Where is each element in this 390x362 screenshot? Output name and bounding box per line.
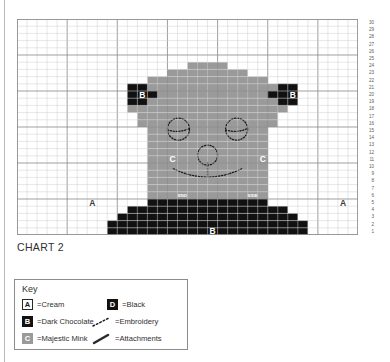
key-entry-majestic-mink: C =Majestic Mink [22,332,87,345]
key-entry-embroidery: =Embroidery [91,315,158,328]
chart-row-number: 17 [369,113,374,120]
chart-row-number: 25 [369,55,374,62]
chart-row-number: 5 [372,199,374,206]
chart-row-number: 18 [369,105,374,112]
key-label-cream: =Cream [37,300,64,309]
key-swatch-majestic-mink: C [22,333,33,344]
chart-row-number: 15 [369,127,374,134]
chart-row-number: 23 [369,69,374,76]
chart-row-number: 20 [369,91,374,98]
key-entry-dark-chocolate: B =Dark Chocolate [22,315,94,328]
chart-grid-canvas [17,19,358,235]
chart-caption: CHART 2 [17,241,64,253]
chart-row-number: 14 [369,134,374,141]
key-label-embroidery: =Embroidery [115,317,158,326]
key-entry-attachments: =Attachments [91,332,162,345]
key-entry-cream: A =Cream [22,298,64,311]
chart-row-number: 7 [372,185,374,192]
key-label-dark-chocolate: =Dark Chocolate [37,317,94,326]
chart-row-number: 4 [372,206,374,213]
attachment-solid-line-icon [91,333,111,345]
chart-row-number: 30 [369,19,374,26]
knitting-chart: BBCCAABENDSIDE [17,19,358,235]
chart-row-number: 24 [369,62,374,69]
chart-row-number: 27 [369,41,374,48]
chart-row-number: 16 [369,120,374,127]
chart-row-number: 2 [372,221,374,228]
chart-row-number: 19 [369,98,374,105]
key-label-majestic-mink: =Majestic Mink [37,334,87,343]
key-label-attachments: =Attachments [115,334,162,343]
key-entry-black: D =Black [107,298,145,311]
chart-row-number: 6 [372,192,374,199]
key-swatch-black: D [107,299,118,310]
chart-row-number: 10 [369,163,374,170]
chart-row-number: 28 [369,33,374,40]
page-left-rule [4,0,5,362]
chart-row-number: 26 [369,48,374,55]
chart-row-number: 11 [369,156,374,163]
key-label-black: =Black [122,300,145,309]
embroidery-dashed-line-icon [91,316,111,328]
chart-key-legend: Key A =Cream B =Dark Chocolate C =Majest… [14,279,188,350]
chart-row-number: 13 [369,141,374,148]
chart-row-number: 9 [372,170,374,177]
chart-row-number: 22 [369,77,374,84]
chart-row-number: 3 [372,213,374,220]
chart-row-number: 1 [372,228,374,235]
chart-row-number: 12 [369,149,374,156]
chart-row-number: 29 [369,26,374,33]
chart-row-number: 21 [369,84,374,91]
key-swatch-dark-chocolate: B [22,316,33,327]
key-title: Key [22,284,38,294]
chart-row-number: 8 [372,177,374,184]
chart-row-number-axis: 3029282726252423222120191817161514131211… [359,19,385,235]
key-swatch-cream: A [22,299,33,310]
